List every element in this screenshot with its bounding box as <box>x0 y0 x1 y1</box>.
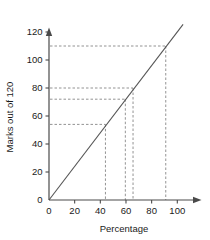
x-tick-label-100: 100 <box>169 205 185 216</box>
y-tick-label-60: 60 <box>32 110 43 121</box>
x-axis-arrow-icon <box>193 197 202 203</box>
chart-figure: 020406080100120020406080100PercentageMar… <box>0 0 210 240</box>
x-tick-label-60: 60 <box>121 205 132 216</box>
y-tick-label-100: 100 <box>27 54 43 65</box>
y-tick-label-40: 40 <box>32 138 43 149</box>
y-tick-label-80: 80 <box>32 82 43 93</box>
y-axis-ticks-group: 020406080100120 <box>27 26 49 205</box>
chart-canvas: 020406080100120020406080100PercentageMar… <box>0 0 210 240</box>
x-tick-label-80: 80 <box>146 205 157 216</box>
x-tick-label-20: 20 <box>69 205 80 216</box>
x-tick-label-40: 40 <box>95 205 106 216</box>
x-axis-ticks-group: 020406080100 <box>46 200 185 216</box>
y-axis-title: Marks out of 120 <box>4 82 15 153</box>
y-tick-label-120: 120 <box>27 26 43 37</box>
data-line-conversion <box>49 24 183 200</box>
x-tick-label-0: 0 <box>46 205 51 216</box>
y-tick-label-0: 0 <box>37 194 42 205</box>
x-axis-title: Percentage <box>100 223 149 234</box>
y-tick-label-20: 20 <box>32 166 43 177</box>
